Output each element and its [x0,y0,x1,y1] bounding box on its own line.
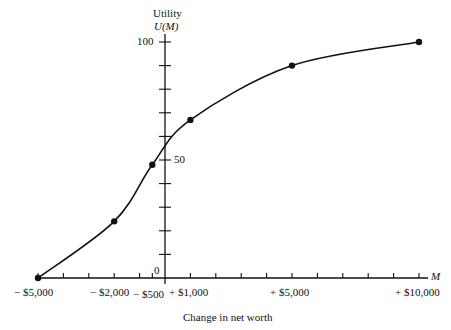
data-point [111,218,117,224]
y-axis-symbol-text: U(M) [154,20,178,32]
x-axis-title: Change in net worth [183,311,273,323]
data-point [289,62,295,68]
y-tick-label-100: 100 [137,35,154,47]
data-point [149,162,155,168]
x-tick-label-plus-1000: + $1,000 [169,286,208,298]
x-tick-label-plus-5000: + $5,000 [270,286,309,298]
data-point [416,39,422,45]
x-ticks [38,273,419,278]
y-axis-symbol: U(M) [154,20,178,32]
data-points [35,39,422,281]
x-axis-symbol: M [431,270,440,282]
x-tick-label-minus-5000: − $5,000 [14,286,53,298]
y-axis-title: Utility [153,7,182,19]
y-tick-label-0: 0 [154,264,160,276]
utility-curve [38,42,419,278]
data-point [35,275,41,281]
data-point [187,117,193,123]
x-tick-label-minus-500: − $500 [133,288,164,300]
y-tick-label-50: 50 [174,153,185,165]
x-tick-label-plus-10000: + $10,000 [395,286,440,298]
utility-curve-chart [0,0,451,330]
x-tick-label-minus-2000: − $2,000 [90,286,129,298]
